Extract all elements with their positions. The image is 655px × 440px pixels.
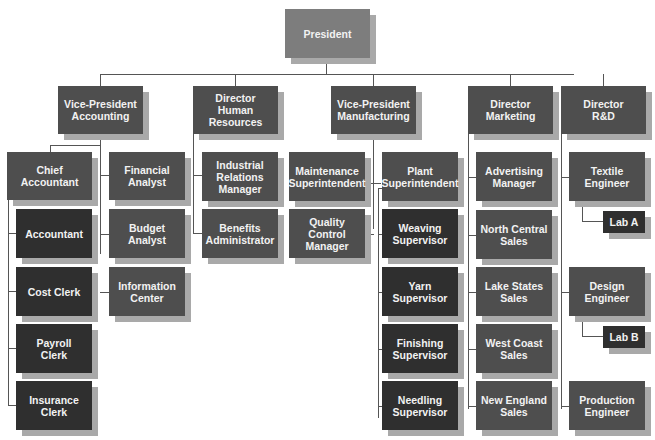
- node-advertising-manager: Advertising Manager: [476, 152, 552, 201]
- node-finishing-supervisor: Finishing Supervisor: [382, 324, 458, 373]
- node-payroll-clerk: Payroll Clerk: [16, 324, 92, 373]
- node-design-engineer: Design Engineer: [569, 267, 645, 316]
- connector: [373, 134, 374, 229]
- node-information-center: Information Center: [109, 267, 185, 316]
- connector: [193, 134, 194, 234]
- node-vp-manufacturing: Vice-President Manufacturing: [331, 86, 416, 134]
- connector: [8, 348, 16, 349]
- node-budget-analyst: Budget Analyst: [109, 209, 185, 258]
- node-north-central-sales: North Central Sales: [476, 210, 552, 259]
- connector: [100, 134, 101, 254]
- node-director-marketing: Director Marketing: [468, 86, 553, 134]
- node-director-hr: Director Human Resources: [193, 86, 278, 134]
- node-lake-states-sales: Lake States Sales: [476, 267, 552, 316]
- connector: [582, 221, 603, 222]
- connector: [582, 336, 603, 337]
- org-chart: President Vice-President Accounting Dire…: [0, 0, 655, 440]
- connector: [365, 234, 374, 235]
- node-yarn-supervisor: Yarn Supervisor: [382, 267, 458, 316]
- connector: [8, 200, 9, 405]
- node-accountant: Accountant: [16, 209, 92, 258]
- connector: [378, 188, 379, 418]
- connector: [510, 74, 511, 86]
- node-plant-superintendent: Plant Superintendent: [382, 152, 458, 201]
- node-production-engineer: Production Engineer: [569, 381, 645, 430]
- node-benefits-administrator: Benefits Administrator: [202, 209, 278, 258]
- node-weaving-supervisor: Weaving Supervisor: [382, 209, 458, 258]
- connector: [561, 177, 569, 178]
- connector: [603, 74, 604, 86]
- connector: [561, 134, 562, 409]
- node-lab-b: Lab B: [603, 326, 645, 348]
- connector: [468, 406, 476, 407]
- node-president: President: [285, 9, 370, 58]
- node-quality-control-manager: Quality Control Manager: [289, 209, 365, 258]
- connector: [373, 74, 374, 86]
- connector: [235, 74, 236, 86]
- connector: [8, 405, 16, 406]
- node-vp-accounting: Vice-President Accounting: [58, 86, 143, 134]
- connector: [100, 74, 101, 86]
- connector: [582, 316, 583, 337]
- connector: [100, 74, 574, 75]
- connector: [468, 177, 476, 178]
- connector: [582, 201, 583, 222]
- connector: [326, 58, 327, 75]
- connector: [365, 183, 381, 184]
- node-textile-engineer: Textile Engineer: [569, 152, 645, 201]
- node-insurance-clerk: Insurance Clerk: [16, 381, 92, 430]
- connector: [561, 406, 569, 407]
- connector: [468, 292, 476, 293]
- node-industrial-relations-manager: Industrial Relations Manager: [202, 152, 278, 201]
- connector: [50, 145, 101, 146]
- node-west-coast-sales: West Coast Sales: [476, 324, 552, 373]
- connector: [8, 233, 16, 234]
- connector: [50, 145, 51, 152]
- connector: [8, 291, 16, 292]
- connector: [468, 349, 476, 350]
- node-maintenance-superintendent: Maintenance Superintendent: [289, 152, 365, 201]
- connector: [468, 134, 469, 409]
- node-lab-a: Lab A: [603, 211, 645, 233]
- node-needling-supervisor: Needling Supervisor: [382, 381, 458, 430]
- node-chief-accountant: Chief Accountant: [7, 152, 92, 200]
- node-director-rd: Director R&D: [561, 86, 646, 134]
- node-financial-analyst: Financial Analyst: [109, 152, 185, 200]
- connector: [468, 235, 476, 236]
- node-cost-clerk: Cost Clerk: [16, 267, 92, 316]
- connector: [561, 292, 569, 293]
- node-new-england-sales: New England Sales: [476, 381, 552, 430]
